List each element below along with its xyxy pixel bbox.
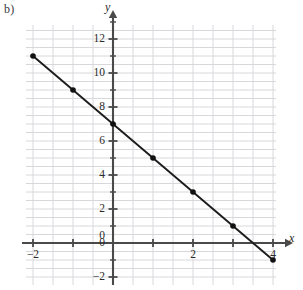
data-point: [190, 189, 196, 195]
y-tick-label: 4: [83, 168, 105, 180]
axis-lines: [22, 10, 293, 285]
x-tick-label: −2: [22, 248, 44, 260]
y-tick-label: −2: [83, 270, 105, 282]
graph-figure: b) y x 121086420−2 −2024: [0, 0, 303, 290]
data-point: [110, 121, 116, 127]
x-tick-label: 0: [91, 229, 113, 241]
coordinate-plane: [0, 0, 303, 290]
x-tick-label: 2: [182, 248, 204, 260]
part-label: b): [4, 2, 14, 17]
y-tick-label: 6: [83, 134, 105, 146]
y-tick-label: 2: [83, 202, 105, 214]
y-tick-label: 10: [83, 66, 105, 78]
y-tick-label: 12: [83, 32, 105, 44]
x-axis-label: x: [289, 231, 294, 246]
y-tick-label: 8: [83, 100, 105, 112]
y-axis-label: y: [105, 0, 110, 15]
data-point: [70, 87, 76, 93]
x-tick-label: 4: [262, 248, 284, 260]
data-point: [150, 155, 156, 161]
data-point: [230, 223, 236, 229]
data-point: [30, 53, 36, 59]
grid-lines: [26, 25, 276, 285]
